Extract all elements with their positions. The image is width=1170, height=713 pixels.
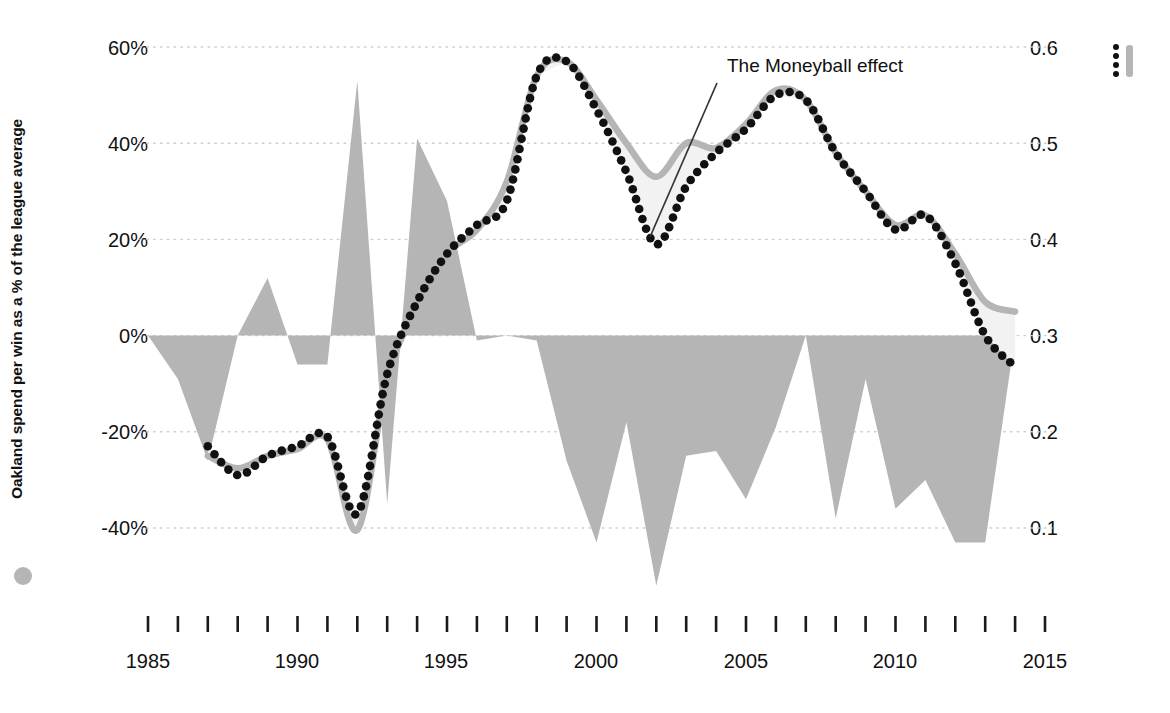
x-tick-marks <box>148 616 1045 632</box>
series-oakland-spend-area <box>148 81 1045 586</box>
chart-root: Oakland spend per win as a % of the leag… <box>0 0 1170 713</box>
plot-surface <box>0 0 1170 713</box>
